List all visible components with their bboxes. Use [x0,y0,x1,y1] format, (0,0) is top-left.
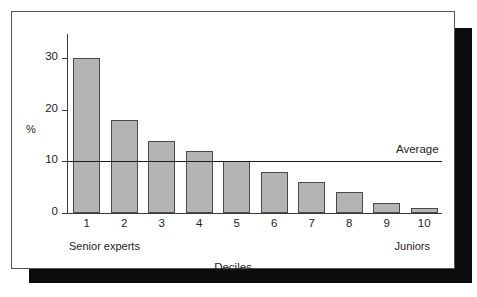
x-axis-title: Deciles [12,261,454,273]
y-axis-tick-label: 20 [24,102,58,114]
bar-decile-3 [148,141,175,213]
bar-decile-8 [336,192,363,213]
bar-decile-2 [111,120,138,213]
bar-decile-5 [223,161,250,213]
bar-decile-7 [298,182,325,213]
average-reference-label: Average [396,143,439,155]
x-axis-left-endpoint-label: Senior experts [69,240,140,252]
y-axis-tick [62,213,67,214]
y-axis-tick [62,110,67,111]
y-axis-tick [62,161,67,162]
x-axis-tick-label: 10 [406,217,444,229]
bar-decile-6 [261,172,288,213]
x-axis-tick-labels: 12345678910 [68,217,443,233]
y-axis-tick [62,58,67,59]
x-axis-tick-label: 6 [256,217,294,229]
chart-plot-area: 0102030 % Average 12345678910 Senior exp… [12,12,454,268]
y-axis-title: % [26,123,36,135]
bar-decile-10 [411,208,438,213]
average-reference-line [68,161,442,162]
x-axis-tick-label: 1 [68,217,106,229]
x-axis-line [67,213,442,214]
x-axis-tick-label: 7 [293,217,331,229]
x-axis-tick-label: 4 [181,217,219,229]
x-axis-right-endpoint-label: Juniors [395,240,430,252]
y-axis-tick-label: 0 [24,205,58,217]
x-axis-tick-label: 5 [218,217,256,229]
x-axis-tick-label: 3 [143,217,181,229]
x-axis-tick-label: 2 [106,217,144,229]
y-axis-tick-label: 30 [24,50,58,62]
bar-decile-4 [186,151,213,213]
x-axis-tick-label: 9 [368,217,406,229]
bar-decile-1 [73,58,100,213]
bar-decile-9 [373,203,400,213]
bar-series [68,12,443,213]
figure-frame: 0102030 % Average 12345678910 Senior exp… [11,11,455,269]
x-axis-tick-label: 8 [331,217,369,229]
y-axis-tick-label: 10 [24,153,58,165]
